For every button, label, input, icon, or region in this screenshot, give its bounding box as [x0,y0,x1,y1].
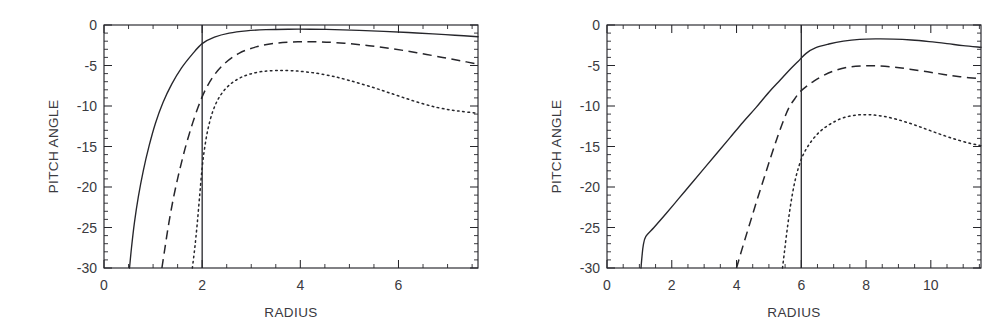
x-axis-label: RADIUS [767,305,820,320]
figure-container: 02460-5-10-15-20-25-30RADIUSPITCH ANGLE … [0,0,1005,323]
y-tick-label: -30 [77,260,97,276]
chart-panel-right: 02468100-5-10-15-20-25-30RADIUSPITCH ANG… [503,0,1005,323]
y-tick-label: 0 [592,17,600,33]
y-tick-label: -5 [85,58,98,74]
y-axis-label: PITCH ANGLE [46,100,61,194]
plot-frame [104,25,478,268]
x-tick-label: 0 [603,277,611,293]
y-tick-label: 0 [89,17,97,33]
x-tick-label: 10 [923,277,939,293]
y-tick-label: -5 [588,58,601,74]
chart-svg-left: 02460-5-10-15-20-25-30RADIUSPITCH ANGLE [0,0,502,323]
x-tick-label: 8 [862,277,870,293]
curve-solid [641,39,981,268]
x-tick-label: 2 [668,277,676,293]
curve-solid [130,29,478,268]
y-axis-label: PITCH ANGLE [549,100,564,194]
y-tick-label: -30 [580,260,600,276]
y-tick-label: -20 [580,179,600,195]
curve-dotted [192,70,478,268]
x-tick-label: 2 [198,277,206,293]
plot-frame [607,25,981,268]
curve-dashed [737,66,981,268]
y-tick-label: -10 [580,98,600,114]
x-tick-label: 6 [797,277,805,293]
chart-svg-right: 02468100-5-10-15-20-25-30RADIUSPITCH ANG… [503,0,1005,323]
x-tick-label: 4 [733,277,741,293]
curve-dotted [783,115,982,268]
x-axis-label: RADIUS [264,305,317,320]
x-tick-label: 6 [395,277,403,293]
y-tick-label: -10 [77,98,97,114]
curve-dashed [162,42,478,268]
y-tick-label: -15 [580,139,600,155]
y-tick-label: -25 [77,220,97,236]
y-tick-label: -20 [77,179,97,195]
x-tick-label: 0 [100,277,108,293]
y-tick-label: -25 [580,220,600,236]
y-tick-label: -15 [77,139,97,155]
x-tick-label: 4 [296,277,304,293]
chart-panel-left: 02460-5-10-15-20-25-30RADIUSPITCH ANGLE [0,0,502,323]
